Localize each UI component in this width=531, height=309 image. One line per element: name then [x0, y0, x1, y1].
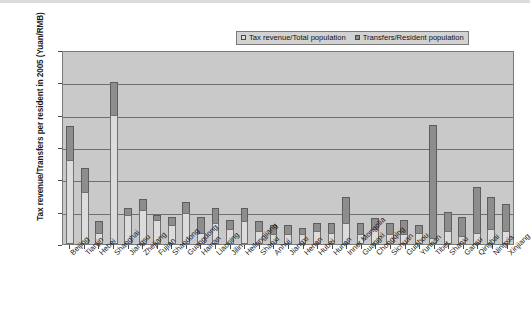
x-label-slot: Beijing — [62, 249, 77, 309]
bar-stack — [241, 208, 249, 244]
x-label-slot: Liaoning — [208, 249, 223, 309]
bar-slot — [382, 52, 397, 244]
x-label-slot: Guizhou — [397, 249, 412, 309]
bar-segment-transfers — [487, 197, 495, 229]
bar-series-group — [63, 52, 513, 244]
x-label-slot: Zhejiang — [135, 249, 150, 309]
bar-slot — [426, 52, 441, 244]
bar-slot — [310, 52, 325, 244]
bar-segment-transfers — [66, 126, 74, 160]
bar-segment-transfers — [95, 221, 103, 232]
bar-stack — [81, 168, 89, 244]
legend-item-tax-revenue: Tax revenue/Total population — [241, 33, 346, 42]
bar-segment-transfers — [415, 225, 423, 233]
bar-stack — [66, 126, 74, 244]
bar-segment-transfers — [182, 202, 190, 213]
bar-segment-transfers — [473, 187, 481, 232]
bar-stack — [110, 82, 118, 244]
bar-segment-transfers — [226, 220, 234, 230]
bar-segment-transfers — [110, 82, 118, 114]
bar-slot — [179, 52, 194, 244]
bar-segment-transfers — [444, 212, 452, 231]
x-axis-labels: BeijingTianjinHebeiShanghaiJiangsuZhejia… — [62, 249, 514, 309]
bar-segment-tax-revenue — [241, 221, 249, 244]
y-axis-tickmark — [58, 116, 62, 117]
x-label-slot: Inner Mongolia — [339, 249, 354, 309]
bar-segment-transfers — [429, 125, 437, 237]
bar-segment-tax-revenue — [66, 160, 74, 244]
bar-segment-transfers — [502, 204, 510, 231]
bar-slot — [63, 52, 78, 244]
bar-segment-transfers — [241, 208, 249, 221]
bar-slot — [208, 52, 223, 244]
bar-segment-transfers — [255, 221, 263, 231]
bar-segment-transfers — [328, 223, 336, 233]
y-axis-title: Tax revenue/Transfers per resident in 20… — [36, 0, 45, 242]
x-label-slot: Jiangxi — [281, 249, 296, 309]
scan-artifact — [0, 0, 530, 3]
x-label-slot: Tianjin — [77, 249, 92, 309]
x-label-slot: Guangxi — [354, 249, 369, 309]
x-label-slot: Sichuan — [383, 249, 398, 309]
bar-segment-transfers — [212, 208, 220, 223]
x-label-slot: Heilongjiang — [237, 249, 252, 309]
bar-slot — [411, 52, 426, 244]
bar-slot — [281, 52, 296, 244]
x-label-slot: Hainan — [193, 249, 208, 309]
x-label-slot: Shanghai — [106, 249, 121, 309]
bar-slot — [295, 52, 310, 244]
x-label-slot: Hebei — [91, 249, 106, 309]
plot-area — [62, 51, 514, 245]
x-label-slot: Hubei — [310, 249, 325, 309]
bar-slot — [165, 52, 180, 244]
y-axis-tickmark — [58, 213, 62, 214]
bar-slot — [266, 52, 281, 244]
x-label-slot: Guangdong — [179, 249, 194, 309]
bar-slot — [324, 52, 339, 244]
bar-slot — [237, 52, 252, 244]
x-label-slot: Gansu — [456, 249, 471, 309]
x-label-slot: Xinjiang — [499, 249, 514, 309]
bar-slot — [498, 52, 513, 244]
y-axis-tickmark — [58, 180, 62, 181]
x-label-slot: Tibet — [426, 249, 441, 309]
x-label-slot: Yunnan — [412, 249, 427, 309]
x-label-slot: Jilin — [222, 249, 237, 309]
bar-slot — [353, 52, 368, 244]
y-axis-tickmark — [58, 51, 62, 52]
bar-slot — [92, 52, 107, 244]
bar-segment-transfers — [458, 217, 466, 236]
x-label-slot: Chongqing — [368, 249, 383, 309]
bar-slot — [440, 52, 455, 244]
x-label-slot: Henan — [295, 249, 310, 309]
bar-slot — [484, 52, 499, 244]
bar-segment-transfers — [168, 217, 176, 225]
bar-slot — [194, 52, 209, 244]
x-label-slot: Qinghai — [470, 249, 485, 309]
legend-label-tax-revenue: Tax revenue/Total population — [249, 33, 346, 42]
x-label-slot: Hunan — [324, 249, 339, 309]
bar-slot — [455, 52, 470, 244]
bar-slot — [107, 52, 122, 244]
legend-swatch-icon-tax-revenue — [241, 35, 246, 40]
legend-label-transfers: Transfers/Resident population — [363, 33, 464, 42]
bar-slot — [136, 52, 151, 244]
bar-slot — [252, 52, 267, 244]
x-label-slot: Anhui — [266, 249, 281, 309]
x-label-slot: Ningxia — [485, 249, 500, 309]
bar-slot — [469, 52, 484, 244]
y-axis-tickmark — [58, 83, 62, 84]
bar-slot — [78, 52, 93, 244]
bar-slot — [121, 52, 136, 244]
bar-slot — [223, 52, 238, 244]
y-axis-tickmark — [58, 245, 62, 246]
bar-stack — [429, 125, 437, 244]
x-label-slot: Shandong — [164, 249, 179, 309]
bar-segment-transfers — [284, 225, 292, 235]
x-label-slot: Shanxi — [441, 249, 456, 309]
bar-slot — [397, 52, 412, 244]
chart-legend: Tax revenue/Total population Transfers/R… — [236, 31, 469, 45]
y-axis-tickmark — [58, 148, 62, 149]
bar-segment-transfers — [139, 199, 147, 210]
